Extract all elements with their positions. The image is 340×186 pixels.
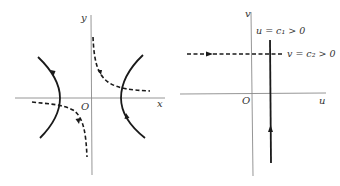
- right-panel: v u O u = c₁ > 0 v = c₂ > 0: [180, 8, 336, 176]
- origin-label: O: [81, 101, 89, 112]
- x-axis-label: x: [157, 98, 163, 109]
- arrow-up-icon: [268, 125, 273, 132]
- figure-canvas: y x O v u O u = c₁ > 0 v = c₂ > 0: [0, 0, 340, 186]
- v-axis-label: v: [245, 8, 251, 19]
- right-hyperbola-branch: [121, 55, 145, 138]
- origin-label: O: [242, 95, 250, 106]
- left-panel: y x O: [15, 12, 165, 175]
- left-hyperbola-branch: [38, 57, 60, 138]
- vertical-line-u-c1: [270, 40, 271, 163]
- u-axis: [180, 93, 326, 94]
- lower-left-dashed-curve: [32, 102, 87, 157]
- arrow-down-icon: [76, 118, 81, 124]
- u-axis-label: u: [319, 95, 325, 106]
- y-axis-label: y: [80, 12, 87, 23]
- v-equals-c2-label: v = c₂ > 0: [287, 48, 336, 59]
- arrow-down-right-icon: [98, 70, 103, 75]
- upper-right-dashed-curve: [93, 37, 150, 91]
- v-axis: [251, 12, 253, 176]
- arrow-right-icon: [206, 52, 213, 57]
- y-axis: [91, 15, 92, 175]
- u-equals-c1-label: u = c₁ > 0: [256, 25, 305, 36]
